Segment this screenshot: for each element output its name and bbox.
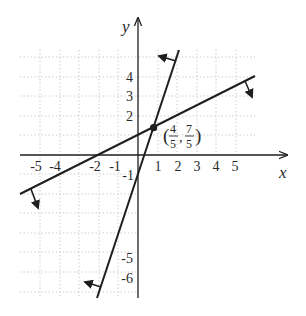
x-tick-label: 3 — [194, 159, 201, 174]
y-axis-label: y — [120, 17, 130, 36]
x-tick-label: 4 — [213, 159, 220, 174]
y-tick-label: -1 — [122, 168, 134, 183]
y-denominator: 5 — [186, 137, 192, 151]
y-tick-label: 2 — [126, 109, 133, 124]
x-tick-label: -2 — [89, 159, 101, 174]
x-denominator: 5 — [170, 137, 176, 151]
line-1-shade-arrow-right — [245, 81, 252, 97]
x-numerator: 4 — [170, 122, 176, 136]
line-1-shade-arrow-left — [31, 189, 38, 208]
x-tick-label: -1 — [109, 159, 121, 174]
x-axis-label: x — [278, 163, 287, 182]
x-tick-label: 5 — [232, 159, 239, 174]
y-tick-labels: 4 3 2 -1 -5 -6 — [121, 70, 134, 286]
paren-open: ( — [163, 125, 169, 147]
y-tick-label: -6 — [121, 271, 133, 286]
x-tick-label: -4 — [49, 159, 61, 174]
paren-close: ) — [195, 125, 201, 147]
comma: , — [179, 130, 183, 145]
x-tick-labels: -5 -4 -2 -1 1 2 3 4 5 — [30, 159, 238, 174]
intersection-point — [150, 124, 157, 131]
linear-inequality-graph: y x -5 -4 -2 -1 1 2 3 4 5 4 3 2 -1 -5 -6… — [0, 0, 306, 316]
y-tick-label: 3 — [126, 89, 133, 104]
line-2-shade-arrow-top — [159, 56, 176, 61]
y-numerator: 7 — [186, 122, 192, 136]
x-tick-label: -5 — [30, 159, 42, 174]
x-tick-label: 1 — [155, 159, 162, 174]
y-tick-label: 4 — [126, 70, 133, 85]
y-tick-label: -5 — [121, 251, 133, 266]
intersection-label: ( 4 5 , 7 5 ) — [163, 122, 201, 151]
x-tick-label: 2 — [175, 159, 182, 174]
